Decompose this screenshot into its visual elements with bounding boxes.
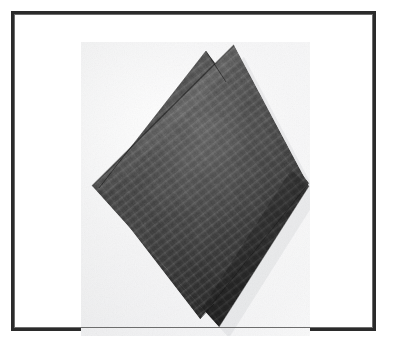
fabric-sheets-group bbox=[81, 42, 310, 336]
fabric-sample-photograph bbox=[81, 42, 310, 336]
photo-frame bbox=[11, 11, 376, 331]
screenshot-root bbox=[0, 0, 396, 351]
front-fabric-sheet bbox=[81, 42, 310, 336]
